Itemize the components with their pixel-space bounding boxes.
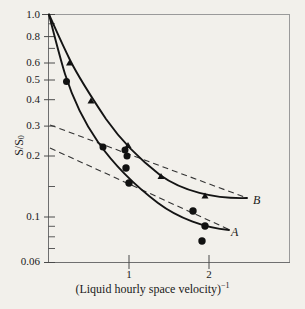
- series-curve-b: [49, 15, 247, 199]
- data-point: [189, 207, 196, 214]
- y-tick-label: 0.6: [6, 56, 40, 68]
- y-tick-label: 1.0: [6, 8, 40, 20]
- data-point: [198, 237, 205, 244]
- y-axis-title-subscript: 0: [17, 135, 26, 139]
- data-point: [122, 147, 129, 154]
- series-b-markers: [66, 60, 209, 199]
- y-axis-title-text: S/S: [12, 139, 26, 156]
- chart-figure: 1.0 0.8 0.6 0.5 0.4 0.3 0.2 0.1 0.06 1 2…: [0, 0, 305, 309]
- chart-plot-area: [0, 0, 305, 309]
- y-tick-label: 0.4: [6, 93, 40, 105]
- x-axis-title-text: (Liquid hourly space velocity): [75, 282, 221, 296]
- x-axis-title-exponent: −1: [221, 281, 230, 290]
- axis-frame: [48, 14, 290, 263]
- curve-label-a: A: [231, 225, 238, 240]
- y-tick-label: 0.06: [1, 255, 40, 267]
- curve-label-b: B: [253, 193, 260, 208]
- x-tick-label: 2: [199, 268, 219, 280]
- data-point: [124, 153, 131, 160]
- data-point: [125, 179, 132, 186]
- data-point: [122, 164, 129, 171]
- data-point: [63, 78, 70, 85]
- y-tick-label: 0.8: [6, 30, 40, 42]
- x-tick-label: 1: [119, 268, 139, 280]
- y-axis-title: S/S0: [12, 123, 27, 169]
- data-point: [201, 222, 208, 229]
- x-axis-title: (Liquid hourly space velocity)−1: [0, 281, 305, 297]
- data-point: [100, 144, 107, 151]
- y-tick-label: 0.5: [6, 73, 40, 85]
- y-tick-label: 0.1: [6, 210, 40, 222]
- y-minor-ticks: [48, 24, 55, 249]
